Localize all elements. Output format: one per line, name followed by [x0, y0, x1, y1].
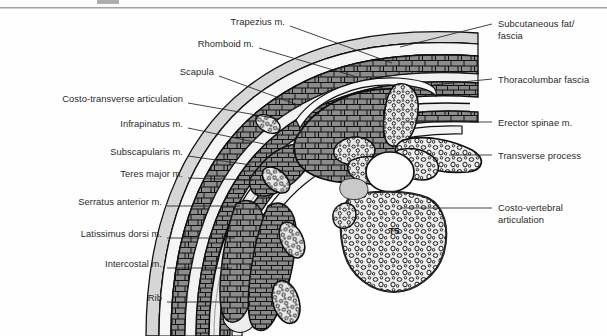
label-latissimus-dorsi: Latissimus dorsi m.	[19, 228, 162, 240]
label-thoracolumbar-fascia: Thoracolumbar fascia	[498, 74, 589, 86]
label-subcutaneous-fat: Subcutaneous fat/ fascia	[498, 18, 574, 41]
label-rhomboid: Rhomboid m.	[142, 38, 254, 50]
leader-scapula	[219, 76, 301, 106]
label-subscapularis: Subscapularis m.	[48, 146, 183, 158]
leader-teres-major	[188, 178, 253, 180]
leader-costo-transverse	[188, 103, 279, 119]
label-trapezius: Trapezius m.	[173, 16, 285, 28]
label-intercostal: Intercostal m.	[44, 258, 162, 270]
label-infrapinatus: Infrapinatus m.	[58, 118, 183, 130]
label-serratus-anterior: Serratus anterior m.	[14, 196, 162, 208]
label-teres-major: Teres major m.	[59, 168, 183, 180]
leader-thoracolumbar	[433, 79, 492, 85]
leader-infrapinatus	[188, 128, 264, 144]
label-scapula: Scapula	[135, 66, 214, 78]
label-costo-transverse-articulation: Costo-transverse articulation	[22, 93, 183, 105]
leader-subscapularis	[188, 156, 251, 165]
leader-trapezius	[290, 26, 392, 63]
leader-rhomboid	[259, 48, 357, 77]
label-erector-spinae: Erector spinae m.	[498, 117, 572, 129]
leader-subcutaneous-fat	[400, 24, 492, 47]
label-rib: Rib	[89, 292, 162, 304]
anatomy-figure: T5 Trap	[0, 0, 607, 336]
label-transverse-process: Transverse process	[498, 150, 581, 162]
label-costo-vertebral-articulation: Costo-vertebral articulation	[498, 202, 563, 225]
